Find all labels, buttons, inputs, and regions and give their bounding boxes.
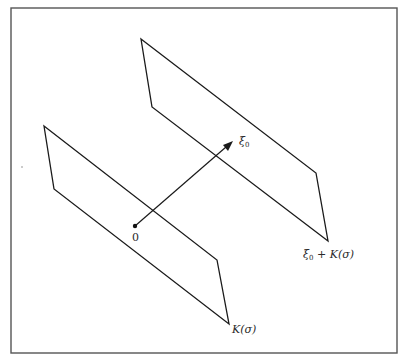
figure-frame	[11, 8, 397, 353]
scan-speck	[21, 166, 23, 168]
diagram-canvas	[0, 0, 408, 363]
diagram-figure: 0 ξ0 ξ0 + K(σ) K(σ)	[0, 0, 408, 363]
arrowhead-icon	[223, 141, 233, 151]
translated-plane-label: ξ0 + K(σ)	[303, 249, 354, 262]
xi0-label: ξ0	[239, 136, 250, 149]
k-sigma-text: K(σ)	[232, 323, 256, 336]
vector-xi0-line	[135, 147, 226, 226]
plus-k-sigma-text: + K(σ)	[314, 248, 355, 261]
subspace-plane-label: K(σ)	[232, 324, 256, 335]
origin-label-text: 0	[132, 231, 139, 244]
origin-point	[133, 224, 137, 228]
plane-xi0-plus-k-sigma	[141, 39, 328, 241]
xi-subscript: 0	[245, 141, 249, 149]
origin-label: 0	[132, 232, 139, 243]
